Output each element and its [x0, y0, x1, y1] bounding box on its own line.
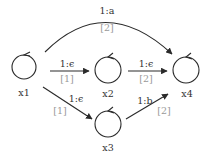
edge-x1-x2-weight: [1]	[60, 73, 73, 84]
edge-x1-x3-line	[43, 87, 92, 119]
node-x3-label: x3	[102, 142, 113, 153]
edge-x1-x2-label: 1:ϵ	[60, 58, 75, 69]
edge-x3-x4[interactable]: 1:b [2]	[126, 94, 171, 119]
node-x2[interactable]: x2	[95, 53, 121, 99]
node-x2-circle	[95, 57, 121, 83]
edge-x3-x4-weight: [2]	[157, 105, 170, 116]
edge-x1-x2[interactable]: 1:ϵ [1]	[50, 58, 89, 84]
node-x4-circle	[173, 57, 199, 83]
node-x1[interactable]: x1	[12, 52, 36, 98]
node-x3[interactable]: x3	[95, 107, 121, 153]
transducer-diagram: x1 x2 x3 x4 1:a [2] 1:ϵ [1] 1:ϵ [2] 1:ϵ	[0, 0, 212, 157]
node-x1-circle	[12, 55, 36, 79]
node-x4-label: x4	[181, 88, 192, 99]
self-loop-arrow-icon	[24, 52, 30, 56]
edge-x2-x4[interactable]: 1:ϵ [2]	[128, 58, 167, 84]
node-x1-label: x1	[18, 87, 29, 98]
edge-x1-x3[interactable]: 1:ϵ [1]	[43, 87, 92, 119]
edge-x1-x3-weight: [1]	[53, 105, 66, 116]
edge-x1-x4[interactable]: 1:a [2]	[45, 5, 172, 54]
node-x4[interactable]: x4	[173, 53, 199, 99]
edge-x1-x4-label: 1:a	[100, 5, 115, 16]
edge-x3-x4-label: 1:b	[137, 95, 152, 106]
edge-x1-x4-weight: [2]	[100, 22, 113, 33]
edge-x1-x3-label: 1:ϵ	[69, 93, 84, 104]
node-x3-circle	[95, 111, 121, 137]
edge-x2-x4-label: 1:ϵ	[139, 58, 154, 69]
node-x2-label: x2	[102, 88, 113, 99]
edge-x2-x4-weight: [2]	[139, 73, 152, 84]
